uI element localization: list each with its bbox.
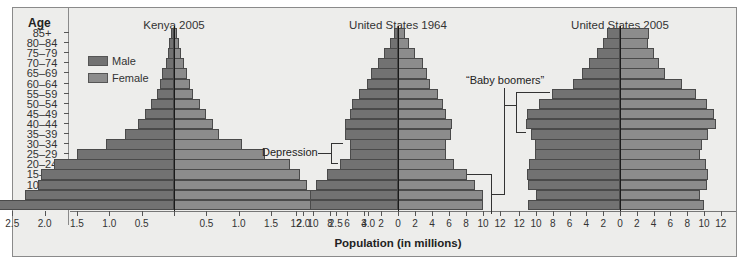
bar-male [529,159,620,170]
x-tick [174,211,175,216]
x-tick [620,211,621,216]
bar-female [174,68,187,79]
bar-male [531,129,620,140]
age-tick [64,143,69,144]
bar-male [41,169,174,180]
bar-male [25,190,174,201]
bar-male [350,139,398,150]
x-tick-label: 12 [290,218,301,229]
x-axis-title: Population (in millions) [334,237,461,249]
bar-female [398,200,483,211]
x-tick-label: 4 [429,218,435,229]
bar-male [54,159,174,170]
x-tick-label: 0 [617,218,623,229]
bar-male [607,28,620,39]
bar-male [390,38,398,49]
bar-female [398,139,446,150]
bar-female [398,28,405,39]
x-tick-label: 4 [361,218,367,229]
bar-female [398,38,409,49]
bar-male [597,48,620,59]
age-tick [64,123,69,124]
bar-male [38,180,174,191]
x-tick [687,211,688,216]
x-tick [398,211,399,216]
x-tick [206,211,207,216]
age-tick [64,72,69,73]
bar-female [620,159,706,170]
bar-female [398,180,475,191]
bar-female [398,58,423,69]
bar-male [125,129,174,140]
x-tick-label: 1.5 [264,218,278,229]
x-tick [483,211,484,216]
center-axis-united-states-1964 [398,26,399,211]
bar-female [398,169,467,180]
bar-female [620,149,700,160]
bar-female [620,129,708,140]
bar-male [345,119,398,130]
depression-bracket-top [331,143,343,144]
bar-male [352,99,398,110]
bar-male [138,119,174,130]
bar-male [528,180,620,191]
x-tick [347,211,348,216]
boomers-2005-bracket [516,92,517,132]
boomers-1964-bracket-mid [491,194,504,195]
x-tick-label: 2.0 [38,218,52,229]
age-tick [64,42,69,43]
bar-female [174,79,190,90]
x-tick-label: 10 [307,218,318,229]
x-tick-label: 12 [514,218,525,229]
x-tick-label: 2 [378,218,384,229]
legend-male-swatch [88,56,108,66]
annotation-baby-boomers: “Baby boomers” [466,74,544,86]
boomers-1964-bracket-top [467,174,491,175]
x-tick [364,211,365,216]
bar-female [398,119,452,130]
bar-female [620,200,704,211]
bar-female [620,58,659,69]
bar-female [174,58,184,69]
x-tick [296,211,297,216]
x-tick [704,211,705,216]
bar-male [378,58,398,69]
x-tick-label: 8 [327,218,333,229]
bar-male [106,139,174,150]
bar-female [620,89,696,100]
age-tick [64,133,69,134]
bar-female [620,28,649,39]
bar-female [620,48,654,59]
x-tick-label: 2.5 [5,218,19,229]
x-tick-label: 4 [651,218,657,229]
bar-female [620,169,708,180]
x-tick-label: 12 [494,218,505,229]
bar-male [310,190,398,201]
bar-female [174,149,265,160]
bar-female [174,180,307,191]
bar-female [174,139,242,150]
age-tick [64,62,69,63]
legend-female-label: Female [112,72,149,84]
bar-male [162,68,174,79]
bar-male [327,169,398,180]
bar-female [620,119,716,130]
x-tick [239,211,240,216]
x-tick [603,211,604,216]
x-tick [415,211,416,216]
bar-male [310,200,398,211]
x-axis-line-united-states-2005 [508,211,736,212]
depression-bracket-mid [328,153,331,154]
bar-female [398,190,483,201]
bar-female [620,68,665,79]
age-tick [64,153,69,154]
age-tick [64,52,69,53]
x-tick [466,211,467,216]
x-tick-label: 10 [530,218,541,229]
bar-female [174,190,316,201]
x-tick-label: 10 [698,218,709,229]
bar-male [77,149,174,160]
boomers-2005-bracket-mid [504,105,516,106]
bar-female [174,89,193,100]
x-tick-label: 1.0 [102,218,116,229]
